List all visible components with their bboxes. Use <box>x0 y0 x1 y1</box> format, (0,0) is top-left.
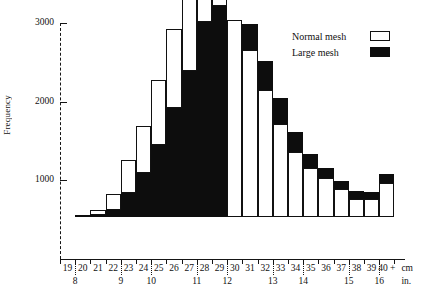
legend-item-normal-mesh: Normal mesh <box>292 28 390 44</box>
bar-22 <box>106 194 121 217</box>
x-axis-inch-tick-8 <box>75 259 76 275</box>
x-axis-inch-tick-10 <box>151 259 152 275</box>
bar-segment-normal-mesh <box>136 126 151 173</box>
bar-segment-normal-mesh <box>379 183 394 217</box>
bar-segment-large-mesh <box>75 215 90 217</box>
x-axis-inch-tick-15 <box>349 259 350 275</box>
bar-38 <box>349 191 364 217</box>
bar-segment-normal-mesh <box>349 199 364 217</box>
x-axis-inch-label-16: 16 <box>368 277 390 287</box>
bar-segment-large-mesh <box>318 168 333 178</box>
legend-label-normal-mesh: Normal mesh <box>292 31 370 42</box>
bar-segment-normal-mesh <box>273 124 288 217</box>
bar-segment-large-mesh <box>182 71 197 217</box>
bar-segment-large-mesh <box>212 6 227 217</box>
bar-segment-normal-mesh <box>242 50 257 217</box>
bar-29 <box>212 0 227 217</box>
bar-25 <box>151 80 166 217</box>
bar-segment-large-mesh <box>334 181 349 190</box>
bar-segment-normal-mesh <box>106 194 121 210</box>
bar-21 <box>90 210 105 217</box>
bar-segment-large-mesh <box>364 192 379 199</box>
bar-segment-large-mesh <box>349 191 364 199</box>
histogram-chart: Frequency 100020003000 19202122232425262… <box>0 0 436 301</box>
bar-segment-large-mesh <box>242 24 257 50</box>
bar-segment-normal-mesh <box>303 168 318 217</box>
x-axis-inch-label-8: 8 <box>64 277 86 287</box>
bar-segment-large-mesh <box>166 108 181 217</box>
bar-segment-large-mesh <box>258 61 273 89</box>
legend-swatch-normal-mesh <box>370 31 390 41</box>
x-axis-inch-label-15: 15 <box>338 277 360 287</box>
x-axis-inch-label-10: 10 <box>140 277 162 287</box>
bar-23 <box>121 160 136 217</box>
x-axis-inch-tick-12 <box>227 259 228 275</box>
x-axis-inch-label-14: 14 <box>292 277 314 287</box>
bar-39 <box>364 192 379 217</box>
x-axis-unit-in: in. <box>401 277 411 287</box>
bar-segment-normal-mesh <box>121 160 136 194</box>
chart-legend: Normal mesh Large mesh <box>292 28 390 60</box>
bar-36 <box>318 168 333 217</box>
bar-26 <box>166 29 181 217</box>
x-axis-inch-tick-16 <box>379 259 380 275</box>
x-axis-line <box>60 259 405 260</box>
bar-34 <box>288 132 303 217</box>
bar-segment-large-mesh <box>121 193 136 217</box>
y-axis-line <box>60 23 61 259</box>
bar-segment-large-mesh <box>90 215 105 217</box>
y-axis-tick-1000 <box>60 180 67 181</box>
y-axis-tick-label-1000: 1000 <box>18 175 54 185</box>
bar-segment-large-mesh <box>151 145 166 217</box>
bar-segment-large-mesh <box>273 98 288 124</box>
bar-30 <box>227 20 242 217</box>
bar-segment-large-mesh <box>136 173 151 217</box>
y-axis-title: Frequency <box>2 95 18 135</box>
y-axis-tick-3000 <box>60 23 67 24</box>
x-axis-inch-label-12: 12 <box>216 277 238 287</box>
bar-segment-large-mesh <box>303 154 318 168</box>
x-axis-inch-label-9: 9 <box>110 277 132 287</box>
bar-31 <box>242 24 257 217</box>
x-axis-inch-label-13: 13 <box>262 277 284 287</box>
bar-37 <box>334 181 349 217</box>
bar-40 <box>379 174 394 217</box>
bar-segment-normal-mesh <box>318 178 333 217</box>
bar-segment-normal-mesh <box>258 90 273 217</box>
x-axis-inch-label-11: 11 <box>186 277 208 287</box>
legend-label-large-mesh: Large mesh <box>292 47 370 58</box>
bar-35 <box>303 154 318 217</box>
bar-segment-normal-mesh <box>334 189 349 217</box>
legend-item-large-mesh: Large mesh <box>292 44 390 60</box>
bar-33 <box>273 98 288 217</box>
x-axis-unit-cm: cm <box>401 264 413 274</box>
x-axis-tick-end <box>394 259 395 264</box>
bar-segment-normal-mesh <box>182 0 197 71</box>
bar-segment-normal-mesh <box>151 80 166 145</box>
bar-segment-large-mesh <box>379 174 394 183</box>
bar-segment-large-mesh <box>197 22 212 217</box>
bar-segment-normal-mesh <box>197 0 212 22</box>
y-axis-tick-2000 <box>60 102 67 103</box>
legend-swatch-large-mesh <box>370 47 390 57</box>
bar-20 <box>75 216 90 217</box>
bar-segment-large-mesh <box>288 132 303 152</box>
bar-24 <box>136 126 151 217</box>
bar-27 <box>182 0 197 217</box>
bar-32 <box>258 61 273 217</box>
bar-segment-large-mesh <box>106 210 121 217</box>
x-axis-inch-tick-9 <box>121 259 122 275</box>
bar-segment-normal-mesh <box>227 20 242 217</box>
y-axis-tick-label-3000: 3000 <box>18 18 54 28</box>
x-axis-inch-tick-14 <box>303 259 304 275</box>
x-axis-inch-tick-11 <box>197 259 198 275</box>
bar-segment-normal-mesh <box>364 199 379 217</box>
x-axis-inch-tick-13 <box>273 259 274 275</box>
bar-segment-normal-mesh <box>288 152 303 217</box>
y-axis-tick-label-2000: 2000 <box>18 97 54 107</box>
bar-28 <box>197 0 212 217</box>
bar-segment-normal-mesh <box>166 29 181 108</box>
